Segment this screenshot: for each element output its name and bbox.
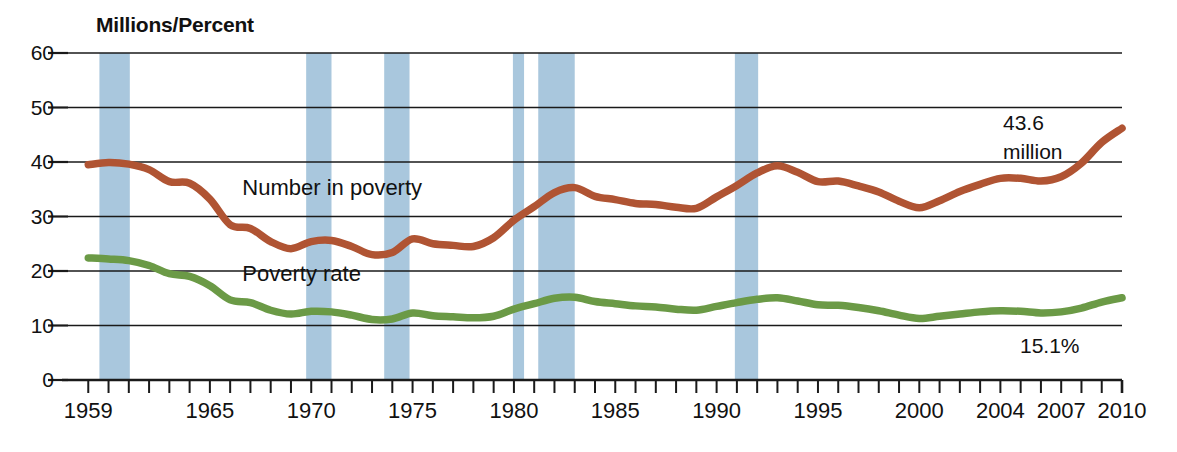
series-group <box>88 128 1122 320</box>
series-label-poverty-rate: Poverty rate <box>242 261 361 287</box>
x-axis-tick-label: 2007 <box>1037 398 1086 424</box>
x-axis-tick-label: 1985 <box>591 398 640 424</box>
x-axis-tick-label: 2010 <box>1098 398 1147 424</box>
x-axis-tick-label: 2004 <box>976 398 1025 424</box>
y-axis-tick-label: 60 <box>8 41 54 65</box>
y-axis-tick-label: 0 <box>8 368 54 392</box>
series-label-number-in-poverty: Number in poverty <box>242 175 422 201</box>
end-value-annotation-poverty-rate: 15.1% <box>1020 334 1080 358</box>
y-axis-tick-label: 20 <box>8 259 54 283</box>
x-axis-tick-label: 1970 <box>287 398 336 424</box>
x-axis-tick-label: 1995 <box>793 398 842 424</box>
x-axis-tick-label: 1959 <box>64 398 113 424</box>
x-tick-marks-group <box>88 380 1122 393</box>
x-axis-tick-label: 1965 <box>185 398 234 424</box>
y-axis-tick-label: 10 <box>8 314 54 338</box>
y-axis-tick-label: 40 <box>8 150 54 174</box>
x-axis-tick-label: 1980 <box>489 398 538 424</box>
y-axis-tick-label: 30 <box>8 205 54 229</box>
plot-area <box>0 0 1177 452</box>
end-value-annotation-number-in-poverty: million <box>1003 140 1063 164</box>
x-axis-tick-label: 1990 <box>692 398 741 424</box>
y-axis-tick-label: 50 <box>8 96 54 120</box>
end-value-annotation-number-in-poverty: 43.6 <box>1003 111 1044 135</box>
poverty-chart: Millions/Percent 01020304050601959196519… <box>0 0 1177 452</box>
x-axis-tick-label: 1975 <box>388 398 437 424</box>
x-axis-tick-label: 2000 <box>895 398 944 424</box>
